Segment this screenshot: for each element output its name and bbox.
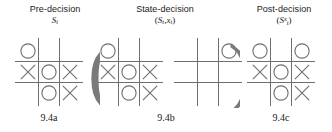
nought-icon <box>272 63 289 80</box>
board-cell-0 <box>250 41 270 61</box>
board-cell-1 <box>270 41 291 61</box>
board-cell-6 <box>177 82 197 103</box>
nought-icon <box>293 43 310 60</box>
symbol-close-paren: ) <box>172 15 175 25</box>
board-cell-2 <box>291 41 312 61</box>
nought-icon <box>272 84 289 101</box>
board-cell-6 <box>18 82 38 103</box>
cross-icon <box>141 84 158 101</box>
board-cell-3 <box>177 61 197 82</box>
state-board <box>98 41 160 103</box>
board-cell-1 <box>197 41 218 61</box>
board-cell-5 <box>291 61 312 82</box>
caption-9-4c: 9.4c <box>242 112 320 123</box>
caption-9-4a: 9.4a <box>10 112 88 123</box>
nought-icon <box>100 43 117 60</box>
board-cell-0 <box>177 41 197 61</box>
board-cell-4 <box>197 61 218 82</box>
board-cell-7 <box>38 82 59 103</box>
header-pre-decision-symbol: St <box>8 15 102 26</box>
header-state-decision: State-decision (St,xt) <box>112 4 218 26</box>
nought-icon <box>20 43 37 60</box>
board-cell-6 <box>98 82 118 103</box>
board-cell-0 <box>98 41 118 61</box>
cross-icon <box>252 63 269 80</box>
board-cell-3 <box>18 61 38 82</box>
symbol-subscript-t: t <box>56 19 58 26</box>
board-cell-5 <box>59 61 80 82</box>
board-cell-6 <box>250 82 270 103</box>
group-open-paren: ( <box>88 36 100 108</box>
nought-icon <box>252 43 269 60</box>
board-cell-1 <box>118 41 139 61</box>
header-state-decision-title: State-decision <box>112 4 218 14</box>
cross-icon <box>20 63 37 80</box>
board-cell-3 <box>250 61 270 82</box>
board-cell-7 <box>118 82 139 103</box>
board-cell-4 <box>270 61 291 82</box>
post-decision-board <box>250 41 312 103</box>
board-cell-7 <box>270 82 291 103</box>
board-cell-2 <box>139 41 160 61</box>
nought-icon <box>40 63 57 80</box>
cross-icon <box>141 63 158 80</box>
board-cell-3 <box>98 61 118 82</box>
symbol-close-paren: ) <box>289 16 292 26</box>
pre-decision-board <box>18 41 80 103</box>
board-cell-8 <box>59 82 80 103</box>
board-cell-7 <box>197 82 218 103</box>
cross-icon <box>293 63 310 80</box>
cross-icon <box>61 84 78 101</box>
caption-9-4b: 9.4b <box>118 112 214 123</box>
board-cell-5 <box>139 61 160 82</box>
cross-icon <box>100 63 117 80</box>
board-cell-8 <box>139 82 160 103</box>
board-cell-8 <box>291 82 312 103</box>
header-pre-decision: Pre-decision St <box>8 4 102 26</box>
header-post-decision-symbol: (Sxt) <box>238 15 330 26</box>
header-pre-decision-title: Pre-decision <box>8 4 102 14</box>
cross-icon <box>61 63 78 80</box>
header-post-decision: Post-decision (Sxt) <box>238 4 330 27</box>
board-cells <box>18 41 80 103</box>
nought-icon <box>120 63 137 80</box>
header-state-decision-symbol: (St,xt) <box>112 15 218 26</box>
board-cell-2 <box>59 41 80 61</box>
board-cell-1 <box>38 41 59 61</box>
panel-headers: Pre-decision St State-decision (St,xt) P… <box>0 0 332 32</box>
board-cells <box>250 41 312 103</box>
board-cell-4 <box>118 61 139 82</box>
board-cell-0 <box>18 41 38 61</box>
board-cell-4 <box>38 61 59 82</box>
header-post-decision-title: Post-decision <box>238 4 330 14</box>
nought-icon <box>40 84 57 101</box>
group-close-paren: ) <box>228 36 240 108</box>
cross-icon <box>293 84 310 101</box>
board-cells <box>98 41 160 103</box>
nought-icon <box>120 84 137 101</box>
